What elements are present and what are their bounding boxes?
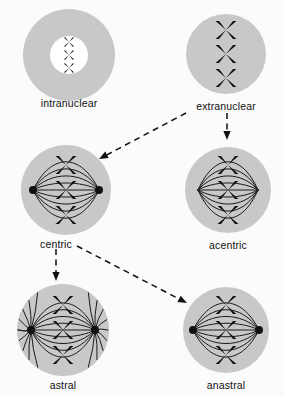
- cell-label-extranuclear: extranuclear: [196, 100, 256, 112]
- cell-label-acentric: acentric: [209, 239, 247, 251]
- centrosome-astral-left: [27, 326, 35, 334]
- arrow-centric-to-anastral: [77, 246, 187, 303]
- centrosome-centric-left: [29, 186, 37, 194]
- arrow-head: [177, 296, 187, 303]
- centrosome-centric-right: [95, 186, 103, 194]
- arrow-head: [223, 131, 230, 140]
- arrow-head: [99, 152, 109, 159]
- cell-intranuclear: [23, 9, 115, 101]
- arrow-shaft: [107, 113, 186, 155]
- arrow-shaft: [77, 246, 179, 299]
- arrow-extranuclear-to-centric: [99, 113, 186, 159]
- centrosome-anastral-left: [189, 326, 197, 334]
- cell-label-astral: astral: [50, 379, 77, 391]
- diagram-canvas: [0, 0, 284, 396]
- arrow-centric-to-astral: [52, 249, 59, 281]
- cell-astral: [17, 284, 109, 376]
- arrow-head: [52, 272, 59, 281]
- cell-label-intranuclear: intranuclear: [41, 97, 98, 109]
- cell-anastral: [183, 287, 269, 373]
- cells-layer: [17, 9, 271, 376]
- centrosome-anastral-right: [255, 326, 263, 334]
- centrosome-astral-right: [91, 326, 99, 334]
- mitotic-apparatus-diagram: intranuclearextranuclearcentricacentrica…: [0, 0, 284, 396]
- arrow-extranuclear-to-acentric: [223, 113, 230, 140]
- cell-centric: [21, 145, 111, 235]
- cell-extranuclear: [186, 14, 266, 94]
- cell-label-centric: centric: [40, 238, 72, 250]
- cell-acentric: [185, 147, 271, 233]
- cell-label-anastral: anastral: [207, 379, 246, 391]
